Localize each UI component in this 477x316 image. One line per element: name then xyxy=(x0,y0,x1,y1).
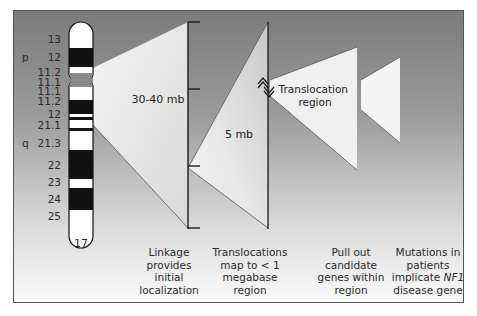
linkage-interval-label: 30-40 mb xyxy=(131,93,184,106)
caption-line: provides xyxy=(134,259,204,272)
band-label: 25 xyxy=(48,210,61,222)
band-label: 21.1 xyxy=(38,119,61,131)
band-label: 22 xyxy=(48,159,61,171)
translocation-region-line1: Translocation xyxy=(278,83,348,95)
translocation-region-line2: region xyxy=(298,96,331,108)
band-label: 23 xyxy=(48,176,61,188)
band-label: 24 xyxy=(48,193,62,205)
caption-line: Linkage xyxy=(134,246,204,259)
translocation-interval-label: 5 mb xyxy=(225,128,253,141)
caption-line: localization xyxy=(134,284,204,297)
caption-line: map to < 1 xyxy=(200,259,300,272)
caption-mutations: Mutations in patients implicate NF1 dise… xyxy=(386,246,470,296)
band-label: 12 xyxy=(48,51,61,63)
band-label: 11.2 xyxy=(38,95,61,107)
chromosome-17-ideogram xyxy=(69,22,93,248)
caption-line: region xyxy=(200,284,300,297)
caption-linkage: Linkage provides initial localization xyxy=(134,246,204,296)
caption-text: implicate xyxy=(392,271,440,283)
p-arm-label: p xyxy=(22,51,29,63)
caption-line: Pull out xyxy=(310,246,392,259)
caption-translocations: Translocations map to < 1 megabase regio… xyxy=(200,246,300,296)
caption-line: candidate xyxy=(310,259,392,272)
band-label: 13 xyxy=(48,33,61,45)
band-label: 21.3 xyxy=(38,137,61,149)
gene-name-nf1: NF1 xyxy=(444,271,465,283)
q-arm-label: q xyxy=(22,137,29,149)
caption-line: Mutations in xyxy=(386,246,470,259)
caption-line: megabase xyxy=(200,271,300,284)
caption-line: patients xyxy=(386,259,470,272)
caption-candidate-genes: Pull out candidate genes within region xyxy=(310,246,392,296)
caption-line: initial xyxy=(134,271,204,284)
caption-line: Translocations xyxy=(200,246,300,259)
caption-line: genes within xyxy=(310,271,392,284)
caption-line: region xyxy=(310,284,392,297)
chromosome-number: 17 xyxy=(74,237,88,250)
caption-line: disease gene xyxy=(386,284,470,297)
caption-line: implicate NF1 xyxy=(386,271,470,284)
